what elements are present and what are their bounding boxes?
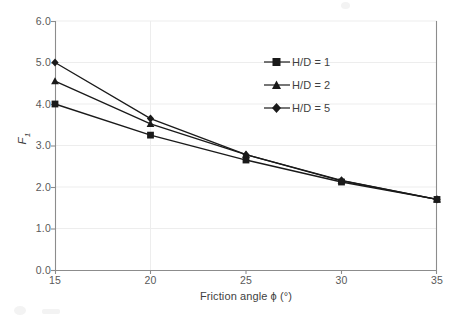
legend-marker-diamond-icon [262, 101, 292, 115]
data-point-square [52, 101, 59, 108]
y-tick-label: 4.0 [17, 99, 51, 110]
y-axis-title-subscript: 1 [23, 133, 32, 137]
x-tick-label: 15 [35, 274, 75, 286]
x-tick-label: 25 [226, 274, 266, 286]
y-tick-label: 6.0 [17, 16, 51, 27]
y-axis-title: F1 [16, 119, 31, 159]
chart-legend: H/D = 1 H/D = 2 H/D = 5 [262, 50, 382, 119]
legend-item[interactable]: H/D = 2 [262, 73, 382, 96]
x-axis-title: Friction angle ϕ (°) [55, 290, 437, 302]
x-tick-label: 35 [417, 274, 457, 286]
y-tick-label: 1.0 [17, 223, 51, 234]
data-point-diamond [147, 114, 154, 122]
legend-marker-square-icon [262, 55, 292, 69]
x-tick-labels: 15 20 25 30 35 [55, 274, 437, 288]
y-tick-label: 2.0 [17, 182, 51, 193]
x-tick-label: 20 [131, 274, 171, 286]
series-3 [51, 58, 440, 203]
data-point-diamond [51, 58, 58, 66]
legend-item[interactable]: H/D = 1 [262, 50, 382, 73]
chart-plot [0, 0, 462, 320]
legend-label: H/D = 1 [292, 56, 330, 68]
y-axis-ticks [51, 22, 55, 271]
data-point-triangle [51, 77, 59, 84]
data-point-square [147, 132, 154, 139]
y-tick-label: 5.0 [17, 57, 51, 68]
y-axis-title-symbol: F [16, 137, 28, 144]
x-axis-title-text: Friction angle ϕ (°) [200, 290, 292, 302]
series-2 [51, 77, 441, 202]
legend-marker-triangle-icon [262, 78, 292, 92]
x-tick-label: 30 [322, 274, 362, 286]
chart-figure: 6.0 5.0 4.0 3.0 2.0 1.0 0.0 15 20 25 30 … [0, 0, 462, 320]
legend-label: H/D = 2 [292, 79, 330, 91]
legend-item[interactable]: H/D = 5 [262, 96, 382, 119]
data-series-layer [51, 58, 441, 203]
legend-label: H/D = 5 [292, 102, 330, 114]
